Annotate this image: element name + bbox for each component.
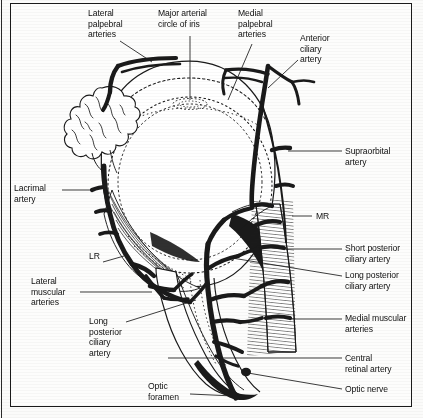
label-anterior-ciliary-artery: Anterior ciliary artery — [300, 33, 329, 65]
label-lateral-palpebral-arteries: Lateral palpebral arteries — [88, 8, 123, 40]
label-long-posterior-ciliary-artery: Long posterior ciliary artery — [345, 270, 399, 291]
label-central-retinal-artery: Central retinal artery — [345, 353, 392, 374]
label-lateral-muscular-arteries: Lateral muscular arteries — [31, 276, 65, 308]
figure-frame — [10, 3, 412, 407]
label-lr: LR — [89, 251, 100, 262]
label-short-posterior-ciliary-artery: Short posterior ciliary artery — [345, 243, 400, 264]
label-medial-palpebral-arteries: Medial palpebral arteries — [238, 8, 273, 40]
label-optic-foramen: Optic foramen — [148, 381, 179, 402]
label-lacrimal-artery: Lacrimal artery — [14, 183, 46, 204]
label-medial-muscular-arteries: Medial muscular arteries — [345, 313, 406, 334]
anatomical-figure: Lateral palpebral arteries Major arteria… — [0, 0, 423, 418]
label-major-arterial-circle-of-iris: Major arterial circle of iris — [158, 8, 207, 29]
label-supraorbital-artery: Supraorbital artery — [345, 146, 390, 167]
label-optic-nerve: Optic nerve — [345, 384, 388, 395]
label-mr: MR — [316, 211, 329, 222]
page-edge-line — [1, 0, 2, 418]
label-long-posterior-ciliary-artery-left: Long posterior ciliary artery — [89, 316, 122, 358]
